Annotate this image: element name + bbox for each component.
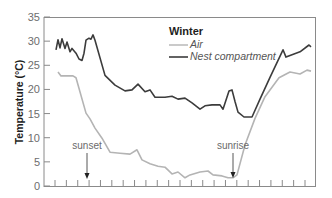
y-tick-label: 20 bbox=[28, 83, 40, 95]
sunset-arrow-head-icon bbox=[85, 173, 90, 179]
sunset-annotation: sunset bbox=[72, 140, 102, 179]
y-tick-label: 30 bbox=[28, 35, 40, 47]
plot-frame bbox=[44, 17, 316, 187]
legend: Winter Air Nest compartment bbox=[169, 25, 277, 62]
legend-title: Winter bbox=[169, 25, 204, 37]
sunrise-label: sunrise bbox=[217, 140, 250, 151]
sunrise-annotation: sunrise bbox=[217, 140, 250, 178]
y-tick-label: 25 bbox=[28, 59, 40, 71]
nest-compartment-series-line bbox=[56, 35, 311, 117]
legend-nest-label: Nest compartment bbox=[190, 50, 277, 62]
y-tick-label: 0 bbox=[34, 180, 40, 192]
x-axis-ticks bbox=[55, 180, 305, 186]
legend-air-label: Air bbox=[189, 38, 203, 50]
y-axis-ticks: 05101520253035 bbox=[28, 11, 50, 192]
y-tick-label: 5 bbox=[34, 156, 40, 168]
y-tick-label: 15 bbox=[28, 108, 40, 120]
temperature-chart: 05101520253035 Temperature (°C) Winter A… bbox=[0, 0, 332, 198]
y-tick-label: 10 bbox=[28, 132, 40, 144]
y-axis-title: Temperature (°C) bbox=[13, 60, 25, 145]
y-tick-label: 35 bbox=[28, 11, 40, 23]
air-series-line bbox=[58, 70, 311, 178]
sunset-label: sunset bbox=[72, 140, 102, 151]
